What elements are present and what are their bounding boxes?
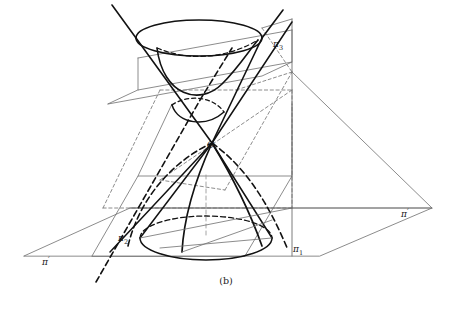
pi3-top-edge <box>138 30 292 58</box>
pi1-top-edge <box>262 19 292 28</box>
pi2-section-curve-right <box>212 143 288 250</box>
base-plane-outline <box>24 208 432 256</box>
pi3-parallelogram-lower <box>108 62 292 104</box>
label-pi-prime-right: π′ <box>400 207 409 219</box>
upper-rim-ellipse <box>136 20 262 56</box>
pi3-dashed-rib-1 <box>262 28 292 72</box>
section-curve-hyperbola <box>182 143 262 252</box>
pi1-diagonal-edge <box>292 72 432 208</box>
geometry-diagram-svg: π3 π2 π1 π′ π′ O (b) <box>0 0 452 311</box>
label-vertex-O: O <box>207 140 215 150</box>
pi2-upper-left-edge <box>138 104 172 176</box>
pi2-trace-line <box>96 48 232 282</box>
lower-cone <box>140 143 272 260</box>
dashed-left-projector <box>103 90 160 208</box>
section-curve-small-ellipse <box>172 98 224 122</box>
label-pi-prime-left: π′ <box>41 255 50 267</box>
upper-generator-extension-left <box>112 5 136 38</box>
figure-container: π3 π2 π1 π′ π′ O (b) <box>0 0 452 311</box>
lower-cone-left-slant <box>140 143 212 238</box>
label-pi1: π1 <box>292 244 303 257</box>
base-plane-pi-prime <box>24 208 432 256</box>
figure-caption: (b) <box>219 275 233 286</box>
lower-base-ellipse-front <box>140 238 272 260</box>
hyperbola-branch-right <box>212 143 262 246</box>
small-ellipse-front <box>172 105 224 122</box>
